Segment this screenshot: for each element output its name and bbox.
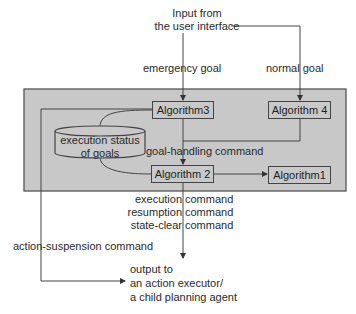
input-label-line2: the user interface	[147, 20, 247, 33]
output-label: output to an action executor/ a child pl…	[130, 262, 237, 304]
algorithm2-node: Algorithm 2	[151, 165, 214, 183]
input-label: Input from the user interface	[147, 7, 247, 33]
action-suspension-command-label: action-suspension command	[13, 240, 153, 253]
output-label-line3: a child planning agent	[130, 290, 237, 304]
output-label-line1: output to	[130, 262, 237, 276]
command-label: command	[185, 206, 233, 219]
database-label-line2: of goals	[55, 147, 145, 160]
resumption-label: resumption	[120, 206, 182, 219]
algorithm1-node: Algorithm1	[268, 166, 331, 184]
output-label-line2: an action executor/	[130, 276, 237, 290]
database-label-line1: execution status	[55, 134, 145, 147]
command-label: command	[185, 193, 233, 206]
execution-label: execution	[120, 193, 182, 206]
command-types-right: command command command	[185, 193, 233, 232]
algorithm3-node: Algorithm3	[152, 101, 214, 119]
state-clear-label: state-clear	[120, 219, 182, 232]
normal-goal-label: normal goal	[266, 62, 323, 75]
goal-handling-command-label: goal-handling command	[146, 145, 263, 158]
database-label: execution status of goals	[55, 134, 145, 160]
command-label: command	[185, 219, 233, 232]
command-types-left: execution resumption state-clear	[120, 193, 182, 232]
input-label-line1: Input from	[147, 7, 247, 20]
emergency-goal-label: emergency goal	[143, 62, 221, 75]
algorithm4-node: Algorithm 4	[268, 101, 331, 119]
